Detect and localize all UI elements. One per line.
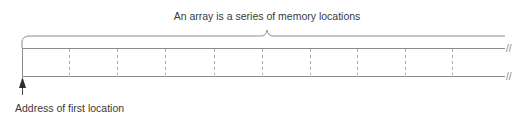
arrow-up-icon [19,77,26,88]
break-mark-top-icon: // [506,43,512,54]
break-mark-bottom-icon: // [506,71,512,82]
first-location-pointer [19,77,26,95]
brace-path [22,30,505,48]
span-brace [22,30,505,48]
cell-dividers [70,49,453,75]
array-outline [22,48,505,76]
diagram-title: An array is a series of memory locations [174,10,361,22]
break-marks: // // [506,43,512,82]
diagram-canvas: An array is a series of memory locations… [0,0,524,118]
array-memory-diagram: An array is a series of memory locations… [0,0,524,118]
first-location-caption: Address of first location [15,102,124,114]
